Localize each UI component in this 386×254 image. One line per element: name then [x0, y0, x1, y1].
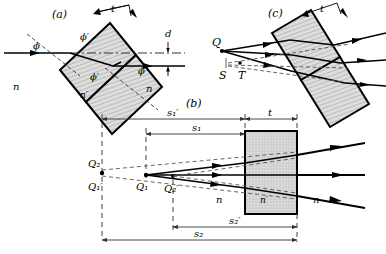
dim-label-s1: s₁ — [192, 122, 201, 133]
index-left-label-b: n — [216, 194, 222, 205]
angle-refraction-label-a: ϕ′ — [80, 31, 90, 42]
index-inside-label-a: n′ — [80, 90, 88, 100]
point-S-label-c: S — [219, 69, 227, 82]
panel-b-label: (b) — [186, 97, 202, 110]
point-Q1prime-label-b: Q₁′ — [88, 181, 103, 192]
panel-c-label: (c) — [268, 7, 283, 20]
point-T-c — [238, 61, 242, 65]
dim-label-s2: s₂ — [194, 228, 203, 239]
index-right-label-a: n — [146, 83, 152, 94]
point-Q1-label-b: Q₁ — [136, 181, 148, 192]
dim-label-s1-prime: s₁′ — [167, 107, 179, 118]
angle-incidence-label-a: ϕ — [33, 40, 40, 51]
index-right-label-b: n — [313, 194, 319, 205]
displacement-label-a: d — [165, 28, 171, 39]
index-left-label-a: n — [13, 81, 19, 92]
point-Q2-b — [100, 171, 104, 175]
point-Q-label-c: Q — [212, 36, 221, 49]
angle-internal-label-a: ϕ′ — [90, 71, 100, 82]
index-plate-label-b: n′ — [260, 195, 268, 205]
panel-a-label: (a) — [52, 8, 67, 21]
optics-figure: (a) t d ϕ ϕ′ ϕ′ ϕ n n′ n — [0, 0, 386, 254]
figure-canvas: (a) t d ϕ ϕ′ ϕ′ ϕ n n′ n — [0, 0, 386, 254]
glass-plate-b — [245, 131, 297, 214]
point-Q2prime-label-b: Q₂′ — [164, 183, 179, 194]
point-Q2-label-b: Q₂ — [88, 158, 100, 169]
angle-exit-label-a: ϕ — [138, 65, 145, 76]
dim-label-s2-prime: s₂′ — [229, 215, 241, 226]
